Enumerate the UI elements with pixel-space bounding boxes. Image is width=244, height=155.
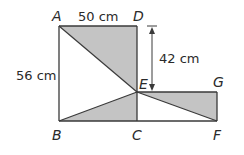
point-label-f: F: [213, 127, 222, 143]
point-label-e: E: [139, 76, 148, 92]
point-label-c: C: [132, 127, 142, 143]
point-label-d: D: [133, 8, 144, 24]
point-label-a: A: [51, 8, 62, 24]
measurement-ab: 56 cm: [16, 68, 57, 83]
geometry-diagram: A D E G B C F 50 cm 56 cm 42 cm: [0, 0, 244, 155]
measurement-ad: 50 cm: [78, 9, 119, 24]
point-label-g: G: [213, 74, 224, 90]
dimension-arrow-de: [147, 26, 157, 91]
point-label-b: B: [52, 127, 62, 143]
measurement-de: 42 cm: [159, 51, 200, 66]
